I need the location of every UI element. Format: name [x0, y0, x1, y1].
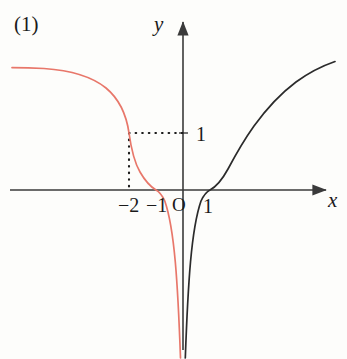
y-axis-label: y — [154, 14, 163, 35]
y-tick-label-1: 1 — [196, 124, 206, 144]
panel-label: (1) — [14, 14, 39, 35]
x-tick-label-neg2: −2 — [118, 195, 139, 215]
origin-label: O — [172, 195, 186, 214]
x-axis-label: x — [328, 190, 337, 211]
plot-canvas — [0, 0, 347, 359]
x-tick-label-1: 1 — [203, 196, 213, 216]
x-tick-label-neg1: −1 — [146, 195, 167, 215]
figure-container: (1) y x −2 −1 O 1 1 — [0, 0, 347, 359]
